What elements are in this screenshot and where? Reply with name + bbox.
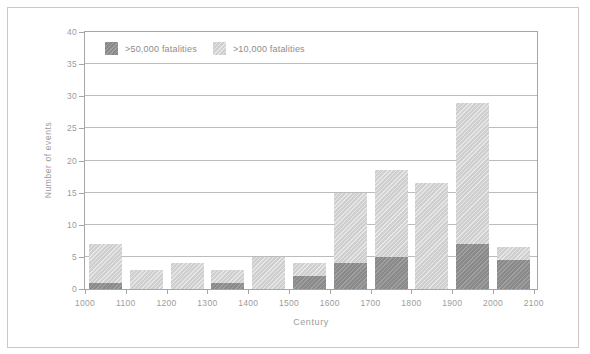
bar-group-1600 <box>334 193 367 289</box>
y-tick-label-0: 0 <box>31 284 77 294</box>
y-tick-label-5: 5 <box>31 252 77 262</box>
y-tick-mark-20 <box>79 161 84 162</box>
y-tick-mark-35 <box>79 64 84 65</box>
y-tick-mark-15 <box>79 193 84 194</box>
bar-group-1000 <box>89 244 122 289</box>
x-axis-title: Century <box>84 317 538 327</box>
x-tick-label-1400: 1400 <box>228 298 268 308</box>
legend-label-50000-fatalities: >50,000 fatalities <box>125 44 197 54</box>
x-tick-mark-1400 <box>248 290 249 294</box>
y-tick-mark-0 <box>79 289 84 290</box>
bar-1600-over-50000 <box>334 263 367 289</box>
bar-1200-over-10000 <box>171 263 204 289</box>
bar-1900-over-50000 <box>456 244 489 289</box>
bar-group-1900 <box>456 103 489 289</box>
x-tick-mark-2100 <box>534 290 535 294</box>
y-tick-mark-5 <box>79 257 84 258</box>
x-tick-label-1100: 1100 <box>106 298 146 308</box>
x-tick-mark-1700 <box>371 290 372 294</box>
bar-group-1300 <box>211 270 244 289</box>
x-tick-label-1300: 1300 <box>187 298 227 308</box>
y-tick-label-25: 25 <box>31 123 77 133</box>
x-tick-label-1000: 1000 <box>65 298 105 308</box>
gridline-y-35 <box>85 63 537 64</box>
y-tick-label-30: 30 <box>31 91 77 101</box>
bar-2000-over-50000 <box>497 260 530 289</box>
bar-group-1200 <box>171 263 204 289</box>
bar-1800-over-10000 <box>415 183 448 289</box>
y-tick-mark-10 <box>79 225 84 226</box>
y-tick-mark-40 <box>79 32 84 33</box>
legend-label-10000-fatalities: >10,000 fatalities <box>233 44 305 54</box>
bar-1700-over-50000 <box>375 257 408 289</box>
y-tick-label-40: 40 <box>31 27 77 37</box>
y-tick-mark-30 <box>79 96 84 97</box>
x-tick-mark-1200 <box>167 290 168 294</box>
x-tick-mark-1500 <box>289 290 290 294</box>
bar-group-1700 <box>375 170 408 289</box>
x-tick-label-1900: 1900 <box>432 298 472 308</box>
x-tick-label-2100: 2100 <box>514 298 554 308</box>
x-tick-mark-1000 <box>85 290 86 294</box>
y-tick-mark-25 <box>79 128 84 129</box>
x-tick-mark-1300 <box>207 290 208 294</box>
bar-1000-over-50000 <box>89 283 122 289</box>
y-tick-label-15: 15 <box>31 188 77 198</box>
bar-group-1500 <box>293 263 326 289</box>
bar-1400-over-10000 <box>252 257 285 289</box>
bar-1500-over-50000 <box>293 276 326 289</box>
x-tick-label-1500: 1500 <box>269 298 309 308</box>
x-tick-mark-1100 <box>126 290 127 294</box>
legend-swatch-50000-fatalities <box>105 42 118 55</box>
x-tick-label-1700: 1700 <box>351 298 391 308</box>
x-tick-label-1800: 1800 <box>391 298 431 308</box>
bar-group-1100 <box>130 270 163 289</box>
bar-group-2000 <box>497 247 530 289</box>
plot-area: >50,000 fatalities >10,000 fatalities <box>84 31 538 290</box>
legend-swatch-10000-fatalities <box>213 42 226 55</box>
chart-canvas: Number of events >50,000 fatalities >10,… <box>0 0 590 354</box>
x-tick-mark-1900 <box>452 290 453 294</box>
bar-1300-over-50000 <box>211 283 244 289</box>
bar-1100-over-10000 <box>130 270 163 289</box>
bar-group-1400 <box>252 257 285 289</box>
x-tick-label-1200: 1200 <box>147 298 187 308</box>
x-tick-mark-1800 <box>411 290 412 294</box>
x-tick-label-2000: 2000 <box>473 298 513 308</box>
x-tick-mark-1600 <box>330 290 331 294</box>
gridline-y-30 <box>85 95 537 96</box>
legend: >50,000 fatalities >10,000 fatalities <box>105 42 305 55</box>
y-tick-label-10: 10 <box>31 220 77 230</box>
x-tick-label-1600: 1600 <box>310 298 350 308</box>
y-tick-label-35: 35 <box>31 59 77 69</box>
x-tick-mark-2000 <box>493 290 494 294</box>
bar-group-1800 <box>415 183 448 289</box>
y-tick-label-20: 20 <box>31 156 77 166</box>
